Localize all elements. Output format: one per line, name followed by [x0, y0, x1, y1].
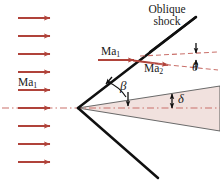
oblique-shock-label-line1: Oblique: [148, 3, 185, 15]
ma1-at-shock-label-sub: 1: [116, 50, 120, 59]
ma1-at-shock-label: Ma1: [101, 45, 120, 59]
ma2-label-text: Ma: [144, 62, 159, 74]
beta-label: β: [120, 79, 126, 93]
ma1-freestream-label-text: Ma: [18, 76, 33, 88]
ma2-label-sub: 2: [159, 67, 163, 76]
ma1-freestream-label-sub: 1: [33, 81, 37, 90]
figure-canvas: [0, 0, 220, 189]
oblique-shock-figure: Oblique shock Ma1 Ma2 Ma1 θ β δ: [0, 0, 220, 189]
theta-label: θ: [192, 61, 198, 74]
ma1-at-shock-label-text: Ma: [101, 45, 116, 57]
ma1-freestream-label: Ma1: [18, 76, 37, 90]
ma2-label: Ma2: [144, 62, 163, 76]
oblique-shock-label-line2: shock: [154, 15, 181, 27]
oblique-shock-label: Oblique shock: [136, 3, 198, 27]
delta-label: δ: [178, 93, 184, 106]
